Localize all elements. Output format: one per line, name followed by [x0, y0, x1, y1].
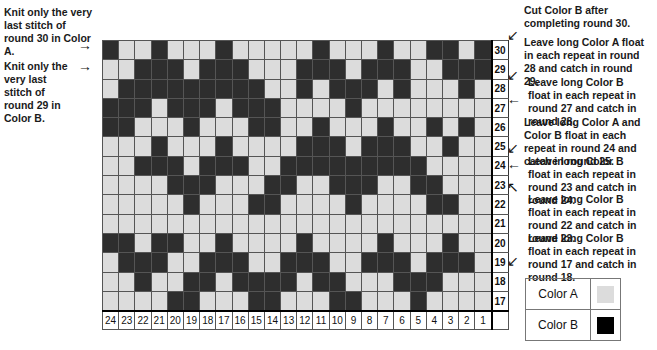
stitch-cell — [103, 98, 119, 117]
round-number: 19 — [492, 253, 509, 272]
stitch-cell — [119, 253, 135, 272]
stitch-cell — [183, 291, 199, 311]
stitch-cell — [475, 195, 492, 214]
stitch-number: 6 — [394, 311, 410, 330]
stitch-cell — [442, 195, 458, 214]
knitting-chart: 3029282726252423222120191817242322212019… — [102, 40, 509, 330]
stitch-cell — [200, 291, 216, 311]
stitch-cell — [248, 272, 264, 291]
round-number: 20 — [492, 233, 509, 252]
stitch-cell — [345, 253, 361, 272]
stitch-cell — [167, 214, 183, 233]
stitch-cell — [119, 156, 135, 175]
stitch-cell — [426, 137, 442, 156]
stitch-cell — [103, 41, 119, 60]
stitch-cell — [378, 98, 394, 117]
stitch-cell — [297, 79, 313, 98]
stitch-cell — [248, 41, 264, 60]
stitch-cell — [459, 233, 475, 252]
round-number: 26 — [492, 118, 509, 137]
stitch-cell — [475, 214, 492, 233]
stitch-cell — [313, 156, 329, 175]
stitch-number: 13 — [281, 311, 297, 330]
stitch-cell — [216, 291, 232, 311]
round-number: 28 — [492, 79, 509, 98]
chart-row-27: 27 — [103, 98, 509, 117]
stitch-number: 4 — [426, 311, 442, 330]
stitch-cell — [103, 137, 119, 156]
stitch-cell — [459, 272, 475, 291]
color-b-swatch — [597, 317, 614, 334]
stitch-cell — [119, 176, 135, 195]
stitch-cell — [329, 253, 345, 272]
chart-row-20: 20 — [103, 233, 509, 252]
stitch-cell — [200, 118, 216, 137]
stitch-cell — [378, 291, 394, 311]
stitch-number: 8 — [362, 311, 378, 330]
stitch-cell — [475, 98, 492, 117]
stitch-cell — [426, 253, 442, 272]
stitch-cell — [297, 253, 313, 272]
stitch-cell — [281, 156, 297, 175]
stitch-cell — [232, 195, 248, 214]
corner-cell — [492, 311, 509, 330]
stitch-cell — [232, 137, 248, 156]
stitch-cell — [410, 253, 426, 272]
stitch-cell — [151, 98, 167, 117]
stitch-cell — [442, 156, 458, 175]
stitch-cell — [410, 156, 426, 175]
stitch-cell — [442, 137, 458, 156]
stitch-cell — [475, 272, 492, 291]
stitch-cell — [135, 137, 151, 156]
stitch-number: 11 — [313, 311, 329, 330]
stitch-cell — [135, 60, 151, 79]
stitch-cell — [426, 41, 442, 60]
stitch-cell — [459, 156, 475, 175]
stitch-cell — [459, 60, 475, 79]
stitch-cell — [394, 253, 410, 272]
stitch-cell — [378, 233, 394, 252]
stitch-cell — [313, 176, 329, 195]
stitch-cell — [248, 233, 264, 252]
stitch-cell — [167, 291, 183, 311]
stitch-cell — [475, 60, 492, 79]
stitch-cell — [119, 79, 135, 98]
stitch-cell — [167, 41, 183, 60]
stitch-cell — [426, 233, 442, 252]
stitch-cell — [410, 137, 426, 156]
stitch-cell — [281, 79, 297, 98]
stitch-cell — [264, 214, 280, 233]
stitch-cell — [135, 79, 151, 98]
stitch-cell — [394, 60, 410, 79]
stitch-cell — [426, 195, 442, 214]
stitch-cell — [248, 156, 264, 175]
stitch-cell — [426, 118, 442, 137]
stitch-cell — [167, 79, 183, 98]
stitch-cell — [394, 195, 410, 214]
round-number: 21 — [492, 214, 509, 233]
stitch-number: 3 — [442, 311, 458, 330]
stitch-cell — [103, 195, 119, 214]
chart-row-29: 29 — [103, 60, 509, 79]
stitch-cell — [232, 291, 248, 311]
round-number: 24 — [492, 156, 509, 175]
stitch-cell — [151, 272, 167, 291]
stitch-number: 2 — [459, 311, 475, 330]
stitch-cell — [426, 79, 442, 98]
stitch-cell — [459, 214, 475, 233]
stitch-cell — [183, 118, 199, 137]
stitch-cell — [362, 233, 378, 252]
stitch-cell — [183, 79, 199, 98]
stitch-cell — [297, 291, 313, 311]
arrow-icon: ↙ — [507, 28, 519, 42]
stitch-cell — [362, 118, 378, 137]
stitch-cell — [362, 60, 378, 79]
stitch-number-row: 242322212019181716151413121110987654321 — [103, 311, 509, 330]
stitch-cell — [362, 98, 378, 117]
stitch-cell — [281, 98, 297, 117]
legend-row-color-b: Color B — [526, 310, 621, 341]
chart-row-22: 22 — [103, 195, 509, 214]
stitch-number: 1 — [475, 311, 492, 330]
stitch-cell — [151, 291, 167, 311]
stitch-cell — [264, 137, 280, 156]
